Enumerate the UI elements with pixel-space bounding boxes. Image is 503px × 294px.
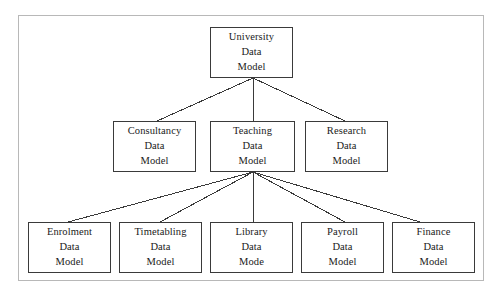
node-timetabling[interactable]: TimetablingDataModel [119, 222, 202, 273]
node-payroll-line-3: Model [329, 255, 357, 270]
node-library-line-1: Library [235, 225, 267, 240]
node-finance-line-2: Data [423, 240, 443, 255]
node-consultancy-line-3: Model [141, 154, 169, 169]
node-timetabling-line-3: Model [147, 255, 175, 270]
node-finance[interactable]: FinanceDataModel [392, 222, 475, 273]
node-teaching[interactable]: TeachingDataModel [210, 121, 295, 172]
node-enrolment-line-2: Data [59, 240, 79, 255]
node-library[interactable]: LibraryDataMode [210, 222, 293, 273]
node-university[interactable]: UniversityDataModel [210, 27, 293, 78]
node-enrolment-line-1: Enrolment [47, 225, 92, 240]
node-teaching-line-2: Data [242, 139, 262, 154]
node-library-line-2: Data [241, 240, 261, 255]
node-timetabling-line-2: Data [150, 240, 170, 255]
node-consultancy-line-2: Data [144, 139, 164, 154]
node-enrolment-line-3: Model [56, 255, 84, 270]
node-research-line-3: Model [333, 154, 361, 169]
node-enrolment[interactable]: EnrolmentDataModel [28, 222, 111, 273]
node-teaching-line-1: Teaching [233, 124, 272, 139]
node-payroll-line-1: Payroll [327, 225, 358, 240]
node-consultancy-line-1: Consultancy [128, 124, 182, 139]
node-research-line-2: Data [336, 139, 356, 154]
node-university-line-1: University [229, 30, 274, 45]
node-finance-line-3: Model [420, 255, 448, 270]
node-consultancy[interactable]: ConsultancyDataModel [113, 121, 196, 172]
node-finance-line-1: Finance [417, 225, 451, 240]
node-teaching-line-3: Model [239, 154, 267, 169]
node-payroll-line-2: Data [332, 240, 352, 255]
node-university-line-3: Model [238, 60, 266, 75]
node-university-line-2: Data [241, 45, 261, 60]
node-research-line-1: Research [327, 124, 366, 139]
node-payroll[interactable]: PayrollDataModel [301, 222, 384, 273]
node-research[interactable]: ResearchDataModel [305, 121, 388, 172]
node-library-line-3: Mode [239, 255, 264, 270]
node-timetabling-line-1: Timetabling [134, 225, 186, 240]
